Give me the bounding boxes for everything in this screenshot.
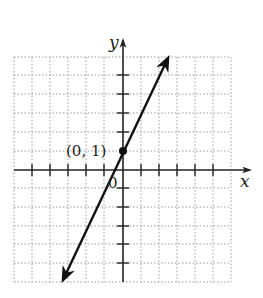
graph-line xyxy=(63,58,168,280)
coordinate-plane: y x 0 (0, 1) xyxy=(0,0,263,298)
x-axis-label: x xyxy=(240,171,250,191)
y-axis-label: y xyxy=(108,32,119,52)
origin-label: 0 xyxy=(108,174,118,192)
point-marker xyxy=(119,147,127,155)
point-label: (0, 1) xyxy=(66,142,106,160)
